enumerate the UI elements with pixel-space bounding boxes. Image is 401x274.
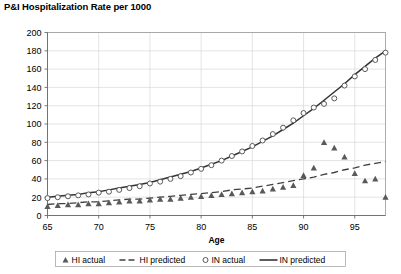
chart-svg: 020406080100120140160180200 657075808590…	[0, 0, 401, 274]
svg-text:65: 65	[42, 222, 52, 232]
svg-text:180: 180	[26, 46, 41, 56]
svg-text:120: 120	[26, 101, 41, 111]
svg-text:40: 40	[31, 174, 41, 184]
svg-text:60: 60	[31, 156, 41, 166]
series-hi-actual	[44, 139, 388, 209]
svg-text:20: 20	[31, 193, 41, 203]
svg-text:85: 85	[247, 222, 257, 232]
svg-text:0: 0	[36, 211, 41, 221]
series-hi-predicted	[48, 162, 386, 205]
chart-canvas: 020406080100120140160180200 657075808590…	[0, 0, 401, 274]
y-axis-ticks: 020406080100120140160180200	[26, 28, 47, 221]
svg-text:80: 80	[31, 138, 41, 148]
svg-text:75: 75	[145, 222, 155, 232]
svg-text:90: 90	[299, 222, 309, 232]
svg-text:80: 80	[196, 222, 206, 232]
svg-text:70: 70	[94, 222, 104, 232]
svg-text:Age: Age	[208, 235, 224, 245]
gridlines	[48, 33, 386, 216]
legend-label: IN predicted	[280, 255, 326, 265]
svg-text:160: 160	[26, 64, 41, 74]
legend-label: HI predicted	[140, 255, 186, 265]
series-in-actual	[45, 50, 388, 200]
legend-label: HI actual	[72, 255, 106, 265]
x-axis-label: Age	[208, 235, 224, 245]
svg-text:100: 100	[26, 119, 41, 129]
svg-text:95: 95	[350, 222, 360, 232]
x-axis-ticks: 65707580859095	[42, 216, 359, 232]
chart-legend: HI actualHI predictedIN actualIN predict…	[56, 252, 346, 267]
legend-label: IN actual	[212, 255, 246, 265]
svg-text:140: 140	[26, 83, 41, 93]
svg-text:200: 200	[26, 28, 41, 38]
